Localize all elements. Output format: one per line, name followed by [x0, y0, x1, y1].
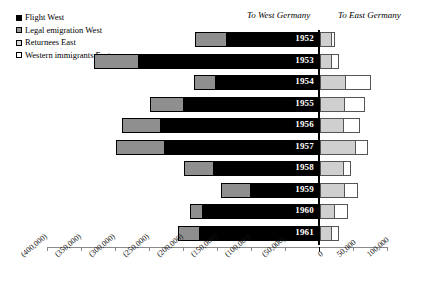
- segment-western-immigrants-east: [331, 226, 339, 241]
- segment-legal-emigration-west: [190, 204, 204, 219]
- migration-chart: Flight West Legal emigration West Return…: [0, 0, 428, 293]
- bar-east-stack: [320, 140, 369, 155]
- segment-returnees-east: [320, 140, 356, 155]
- bar-row: 1952: [47, 32, 387, 47]
- x-axis-tick-label: 0: [316, 249, 325, 258]
- segment-western-immigrants-east: [343, 161, 351, 176]
- segment-returnees-east: [320, 204, 335, 219]
- bar-east-stack: [320, 226, 340, 241]
- bar-row: 1955: [47, 97, 387, 112]
- segment-returnees-east: [320, 97, 345, 112]
- segment-returnees-east: [320, 183, 345, 198]
- bar-year-label: 1957: [295, 141, 314, 151]
- segment-legal-emigration-west: [122, 118, 161, 133]
- legend-swatch-icon-western-immigrants-east: [16, 52, 22, 58]
- segment-legal-emigration-west: [221, 183, 251, 198]
- x-axis-tick: [149, 247, 150, 251]
- bar-west-stack: [122, 118, 319, 133]
- bar-row: 1958: [47, 161, 387, 176]
- legend-swatch-icon-legal-emigration-west: [16, 27, 22, 33]
- x-axis-tick: [387, 247, 388, 251]
- x-axis-tick: [115, 247, 116, 251]
- segment-western-immigrants-east: [344, 183, 358, 198]
- plot-area: 1952195319541955195619571958195919601961: [47, 30, 387, 245]
- bar-row: 1954: [47, 75, 387, 90]
- x-axis-tick: [183, 247, 184, 251]
- bar-year-label: 1954: [295, 76, 314, 86]
- segment-returnees-east: [320, 118, 344, 133]
- bar-row: 1960: [47, 204, 387, 219]
- bar-year-label: 1958: [295, 162, 314, 172]
- bar-east-stack: [320, 97, 366, 112]
- x-axis-tick: [47, 247, 48, 251]
- segment-western-immigrants-east: [344, 97, 364, 112]
- segment-flight-west: [138, 54, 318, 69]
- segment-legal-emigration-west: [94, 54, 139, 69]
- caption-to-east-germany: To East Germany: [338, 10, 401, 20]
- legend-label-flight-west: Flight West: [25, 13, 64, 22]
- bar-east-stack: [320, 204, 349, 219]
- segment-returnees-east: [320, 161, 344, 176]
- segment-western-immigrants-east: [355, 140, 368, 155]
- bar-row: 1953: [47, 54, 387, 69]
- x-axis-tick: [81, 247, 82, 251]
- bar-year-label: 1953: [295, 55, 314, 65]
- x-axis-tick: [251, 247, 252, 251]
- x-axis-tick: [217, 247, 218, 251]
- bar-row: 1956: [47, 118, 387, 133]
- bar-year-label: 1952: [295, 33, 314, 43]
- bar-year-label: 1955: [295, 98, 314, 108]
- x-axis-tick: [285, 247, 286, 251]
- bar-year-label: 1961: [295, 227, 314, 237]
- x-axis-tick-label: (400,000): [19, 232, 49, 259]
- bar-west-stack: [150, 97, 319, 112]
- zero-axis-line: [318, 30, 320, 245]
- legend-item-flight-west: Flight West: [16, 12, 110, 23]
- bar-east-stack: [320, 183, 359, 198]
- segment-returnees-east: [320, 75, 346, 90]
- segment-western-immigrants-east: [331, 32, 336, 47]
- segment-legal-emigration-west: [194, 75, 216, 90]
- segment-legal-emigration-west: [116, 140, 165, 155]
- bar-west-stack: [94, 54, 319, 69]
- bar-year-label: 1959: [295, 184, 314, 194]
- bar-row: 1957: [47, 140, 387, 155]
- bar-east-stack: [320, 161, 352, 176]
- bar-east-stack: [320, 54, 340, 69]
- legend-swatch-icon-flight-west: [16, 15, 22, 21]
- segment-western-immigrants-east: [343, 118, 360, 133]
- legend-swatch-icon-returnees-east: [16, 40, 22, 46]
- bar-east-stack: [320, 32, 336, 47]
- bar-east-stack: [320, 118, 361, 133]
- segment-legal-emigration-west: [150, 97, 184, 112]
- bar-east-stack: [320, 75, 372, 90]
- bar-year-label: 1960: [295, 205, 314, 215]
- bar-year-label: 1956: [295, 119, 314, 129]
- segment-western-immigrants-east: [334, 204, 348, 219]
- caption-to-west-germany: To West Germany: [247, 10, 310, 20]
- segment-western-immigrants-east: [331, 54, 340, 69]
- segment-legal-emigration-west: [184, 161, 213, 176]
- segment-legal-emigration-west: [195, 32, 226, 47]
- segment-western-immigrants-east: [345, 75, 371, 90]
- bar-row: 1959: [47, 183, 387, 198]
- bar-west-stack: [116, 140, 319, 155]
